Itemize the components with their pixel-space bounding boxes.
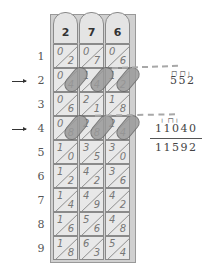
rod-cell: 42 <box>105 188 130 212</box>
rod-cell: 07 <box>79 44 104 68</box>
row-label-9: 9 <box>34 242 48 255</box>
rod-cell: 54 <box>105 236 130 260</box>
partial-product-row-2: 552 <box>170 74 196 87</box>
rod-cell: 18 <box>105 92 130 116</box>
rod-cell: 18 <box>53 236 78 260</box>
arrow-right-icon <box>12 81 26 82</box>
row-label-6: 6 <box>34 170 48 183</box>
rod-header: 7 <box>79 12 104 44</box>
rod-cell: 56 <box>79 212 104 236</box>
row-label-1: 1 <box>34 50 48 63</box>
rod-cell: 49 <box>79 188 104 212</box>
row-label-2: 2 <box>34 74 48 87</box>
sum-rule <box>150 138 202 139</box>
rod-cell: 48 <box>105 212 130 236</box>
rod-cell: 02 <box>53 44 78 68</box>
row-label-3: 3 <box>34 98 48 111</box>
rod-cell: 14 <box>53 188 78 212</box>
rod-cell: 63 <box>79 236 104 260</box>
rod-header: 6 <box>105 12 130 44</box>
rod-cell: 36 <box>105 164 130 188</box>
row-label-8: 8 <box>34 218 48 231</box>
rod-cell: 06 <box>105 44 130 68</box>
partial-product-row-4: 11040 <box>155 122 198 135</box>
row-label-5: 5 <box>34 146 48 159</box>
rod-cell: 12 <box>53 164 78 188</box>
rod-cell: 16 <box>53 212 78 236</box>
rod-header: 2 <box>53 12 78 44</box>
rod-cell: 21 <box>79 92 104 116</box>
arrow-right-icon <box>12 129 26 130</box>
rod-cell: 35 <box>79 140 104 164</box>
row-label-7: 7 <box>34 194 48 207</box>
final-sum: 11592 <box>155 141 198 154</box>
rod-cell: 10 <box>53 140 78 164</box>
rod-cell: 42 <box>79 164 104 188</box>
row-label-4: 4 <box>34 122 48 135</box>
rod-cell: 30 <box>105 140 130 164</box>
rod-cell: 06 <box>53 92 78 116</box>
